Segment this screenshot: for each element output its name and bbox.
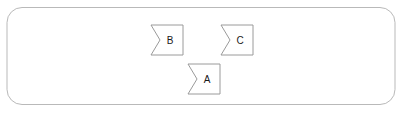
node-c-label: C <box>236 35 243 46</box>
diagram-svg: B C A <box>0 0 403 115</box>
diagram-canvas: B C A <box>0 0 403 115</box>
node-b-label: B <box>167 35 174 46</box>
node-a-label: A <box>204 74 211 85</box>
